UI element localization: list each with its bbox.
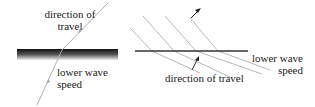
direction-arrow-lower [192,56,199,70]
label-direction-of-travel-right: direction of travel [165,73,244,84]
label-line: travel [41,21,99,32]
medium-boundary-bar [17,49,118,60]
label-lower-wave-speed-left: lower wave speed [57,67,108,90]
label-lower-wave-speed-right: lower wave speed [248,53,303,76]
arrow-head-icon [195,56,199,61]
arrow-head-icon [195,8,201,13]
label-line: speed [57,79,108,90]
direction-arrow-upper [191,8,201,18]
label-line: speed [248,65,303,76]
label-line: direction of [41,9,99,20]
label-direction-of-travel-left: direction of travel [41,9,99,32]
label-line: lower wave [57,67,108,78]
label-line: lower wave [248,53,303,64]
